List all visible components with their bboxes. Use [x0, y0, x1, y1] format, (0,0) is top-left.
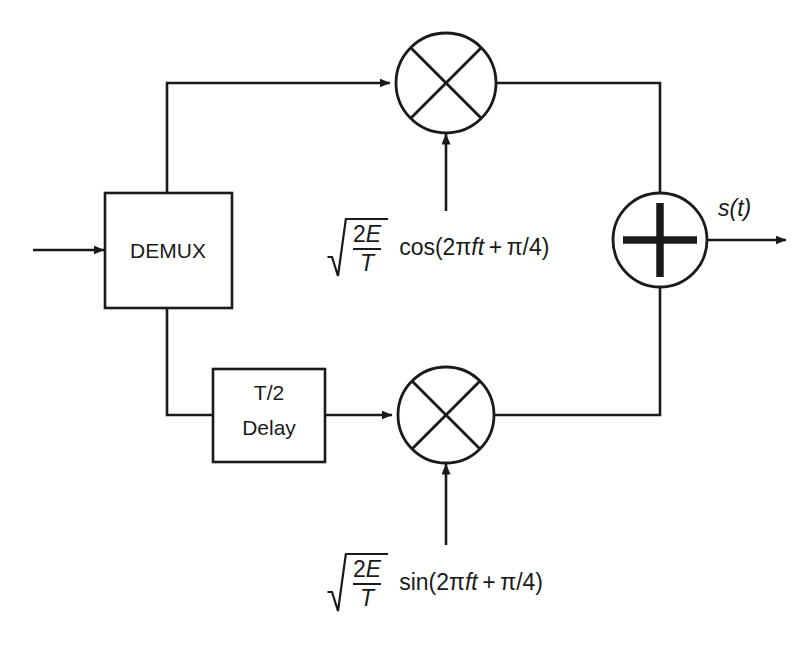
upper-fraction-denominator: T [353, 248, 381, 277]
lower-branch-wire [167, 308, 213, 415]
upper-fraction-numerator: 2E [353, 221, 381, 248]
upper-trig-expression: cos(2πft + π/4) [399, 234, 549, 261]
diagram-canvas: DEMUX T/2 Delay s(t) 2E T cos(2πft + π/4… [0, 0, 812, 665]
sqrt-icon [327, 216, 347, 278]
demux-label: DEMUX [130, 239, 206, 262]
lower-carrier-formula: 2E T sin(2πft + π/4) [327, 551, 543, 613]
lower-trig-expression: sin(2πft + π/4) [399, 569, 543, 596]
lower-radical-icon: 2E T [327, 551, 388, 613]
lower-fraction-denominator: T [353, 583, 381, 612]
delay-label-line1: T/2 [254, 381, 284, 404]
upper-carrier-formula: 2E T cos(2πft + π/4) [327, 216, 549, 278]
sqrt-icon [327, 551, 347, 613]
output-signal-label: s(t) [718, 195, 751, 222]
upper-to-summer-wire [496, 83, 660, 193]
lower-to-summer-wire [494, 287, 660, 415]
upper-radical-icon: 2E T [327, 216, 388, 278]
delay-label-line2: Delay [242, 416, 296, 439]
upper-fraction: 2E T [347, 218, 388, 278]
lower-fraction: 2E T [347, 553, 388, 613]
upper-branch-wire [167, 83, 390, 193]
lower-fraction-numerator: 2E [353, 556, 381, 583]
